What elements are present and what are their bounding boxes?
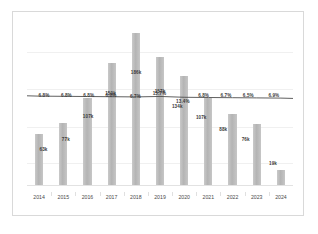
value-label: 186k (131, 70, 142, 75)
value-label: 76k (242, 137, 250, 142)
x-tick-2014: 2014 (33, 194, 45, 200)
percent-label: 6.8% (198, 93, 209, 98)
x-tick-2019: 2019 (154, 194, 166, 200)
x-tick-separator (220, 192, 221, 196)
percent-label: 6.8% (61, 93, 72, 98)
percent-label: 6.7% (130, 94, 141, 99)
x-tick-separator (124, 192, 125, 196)
value-label: 19k (269, 161, 277, 166)
x-tick-separator (269, 192, 270, 196)
value-label: 77k (62, 137, 70, 142)
percent-label: 6.8% (106, 93, 117, 98)
x-tick-separator (75, 192, 76, 196)
x-tick-separator (148, 192, 149, 196)
x-tick-2022: 2022 (227, 194, 239, 200)
value-label: 63k (40, 147, 48, 152)
x-tick-2023: 2023 (251, 194, 263, 200)
percent-label: 6.8% (39, 93, 50, 98)
percent-label: 15.7% (153, 91, 167, 96)
x-tick-2015: 2015 (57, 194, 69, 200)
x-tick-separator (51, 192, 52, 196)
trend-line (27, 22, 293, 186)
plot-area: 63k77k107k150k186k157k134k107k88k76k19k … (27, 22, 293, 186)
chart-frame: 63k77k107k150k186k157k134k107k88k76k19k … (12, 11, 304, 216)
percent-label: 6.8% (83, 93, 94, 98)
value-label: 107k (83, 114, 94, 119)
percent-label: 13.4% (176, 99, 190, 104)
x-tick-2018: 2018 (130, 194, 142, 200)
x-tick-2020: 2020 (178, 194, 190, 200)
x-tick-2021: 2021 (203, 194, 215, 200)
percent-label: 6.5% (243, 93, 254, 98)
x-tick-2017: 2017 (106, 194, 118, 200)
value-label: 134k (172, 104, 183, 109)
x-tick-separator (196, 192, 197, 196)
x-tick-separator (100, 192, 101, 196)
x-axis-labels: 2014201520162017201820192020202120222023… (27, 192, 293, 204)
percent-label: 6.9% (268, 93, 279, 98)
value-label: 107k (196, 115, 207, 120)
x-tick-2024: 2024 (275, 194, 287, 200)
x-axis-line (27, 185, 293, 186)
value-label: 88k (219, 127, 227, 132)
x-tick-separator (172, 192, 173, 196)
percent-label: 6.7% (221, 93, 232, 98)
x-tick-separator (245, 192, 246, 196)
x-tick-2016: 2016 (82, 194, 94, 200)
